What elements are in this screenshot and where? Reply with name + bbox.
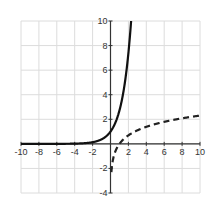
axes bbox=[21, 21, 200, 193]
y-tick-label: 8 bbox=[102, 41, 107, 51]
exp-curve bbox=[21, 21, 131, 144]
y-tick-label: 4 bbox=[102, 90, 107, 100]
x-tick-label: 10 bbox=[195, 147, 205, 157]
x-tick-label: -8 bbox=[35, 147, 43, 157]
y-tick-label: -2 bbox=[99, 163, 107, 173]
x-tick-label: 6 bbox=[162, 147, 167, 157]
x-tick-label: 4 bbox=[144, 147, 149, 157]
chart: -10-8-6-4-2246810-4-2246810 bbox=[0, 0, 216, 206]
tick-labels: -10-8-6-4-2246810-4-2246810 bbox=[14, 16, 205, 198]
y-tick-label: 6 bbox=[102, 65, 107, 75]
x-tick-label: -2 bbox=[89, 147, 97, 157]
x-tick-label: -6 bbox=[53, 147, 61, 157]
x-tick-label: -10 bbox=[14, 147, 27, 157]
y-tick-label: 2 bbox=[102, 114, 107, 124]
x-tick-label: 8 bbox=[180, 147, 185, 157]
y-tick-label: -4 bbox=[99, 188, 107, 198]
y-tick-label: 10 bbox=[97, 16, 107, 26]
x-tick-label: -4 bbox=[71, 147, 79, 157]
x-tick-label: 2 bbox=[126, 147, 131, 157]
